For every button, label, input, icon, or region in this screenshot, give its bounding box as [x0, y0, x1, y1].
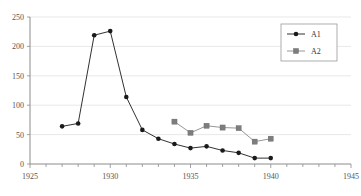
data-series-group — [60, 29, 274, 161]
x-axis-label-1940: 1940 — [263, 172, 279, 181]
series-a1 — [60, 29, 273, 161]
y-axis-tick-labels: 050100150200250 — [12, 13, 24, 169]
x-axis — [30, 164, 351, 168]
data-point-a1-1935 — [188, 146, 193, 151]
x-axis-label-1925: 1925 — [22, 172, 38, 181]
x-tick-marks — [30, 164, 351, 168]
data-point-a2-1935 — [188, 130, 193, 135]
legend: A1 A2 — [281, 24, 337, 61]
data-point-a1-1932 — [140, 128, 145, 133]
x-axis-label-1945: 1945 — [343, 172, 359, 181]
data-point-a2-1938 — [236, 126, 241, 131]
data-point-a1-1927 — [60, 124, 65, 129]
legend-marker-a1 — [294, 32, 299, 37]
data-point-a2-1939 — [252, 139, 257, 144]
y-axis — [27, 17, 30, 164]
data-point-a1-1929 — [92, 33, 97, 38]
y-axis-label-0: 0 — [20, 160, 24, 169]
data-point-a1-1940 — [268, 156, 273, 161]
data-point-a1-1934 — [172, 142, 177, 147]
data-point-a2-1940 — [268, 136, 273, 141]
x-axis-tick-labels: 19251930193519401945 — [22, 172, 359, 181]
data-point-a1-1938 — [236, 151, 241, 156]
data-point-a1-1939 — [252, 156, 257, 161]
legend-label-a1: A1 — [311, 30, 321, 39]
data-point-a1-1928 — [76, 121, 81, 126]
data-point-a2-1934 — [172, 119, 177, 124]
data-point-a2-1937 — [220, 125, 225, 130]
series-line-a1 — [62, 31, 271, 158]
series-a2 — [172, 119, 274, 144]
chart-container: 050100150200250 19251930193519401945 A1 … — [0, 0, 361, 196]
legend-marker-a2 — [293, 48, 298, 53]
data-point-a2-1936 — [204, 123, 209, 128]
x-axis-label-1930: 1930 — [102, 172, 118, 181]
data-point-a1-1931 — [124, 95, 129, 100]
y-axis-label-50: 50 — [16, 131, 24, 140]
y-axis-label-250: 250 — [12, 13, 24, 22]
data-point-a1-1933 — [156, 136, 161, 141]
data-point-a1-1930 — [108, 29, 113, 34]
data-point-a1-1937 — [220, 148, 225, 153]
legend-box — [281, 24, 337, 61]
legend-label-a2: A2 — [311, 47, 321, 56]
y-axis-label-200: 200 — [12, 42, 24, 51]
x-axis-label-1935: 1935 — [183, 172, 199, 181]
line-chart: 050100150200250 19251930193519401945 A1 … — [0, 0, 361, 196]
y-axis-label-100: 100 — [12, 101, 24, 110]
y-axis-label-150: 150 — [12, 72, 24, 81]
data-point-a1-1936 — [204, 144, 209, 149]
